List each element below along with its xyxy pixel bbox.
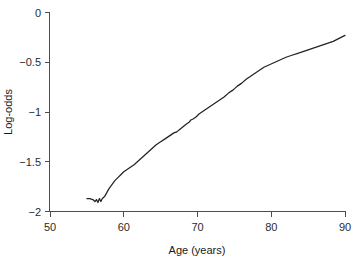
x-tick-label: 80 (265, 221, 277, 233)
y-axis-ticks: 0−0.5−1−1.5−2 (19, 7, 49, 218)
y-tick-label: −1.5 (19, 156, 41, 168)
x-axis-ticks: 5060708090 (44, 212, 351, 234)
log-odds-line-chart: 0−0.5−1−1.5−2 5060708090 Age (years) Log… (0, 0, 354, 262)
y-tick-label: −2 (28, 206, 41, 218)
x-tick-label: 90 (339, 221, 351, 233)
data-curve-log-odds (87, 35, 345, 202)
y-tick-label: −1 (28, 106, 41, 118)
y-tick-label: 0 (35, 7, 41, 19)
x-axis-title: Age (years) (169, 244, 226, 256)
chart-figure: 0−0.5−1−1.5−2 5060708090 Age (years) Log… (0, 0, 354, 262)
x-tick-label: 60 (118, 221, 130, 233)
y-axis-title: Log-odds (2, 89, 14, 135)
y-tick-label: −0.5 (19, 56, 41, 68)
x-tick-label: 70 (191, 221, 203, 233)
x-tick-label: 50 (44, 221, 56, 233)
